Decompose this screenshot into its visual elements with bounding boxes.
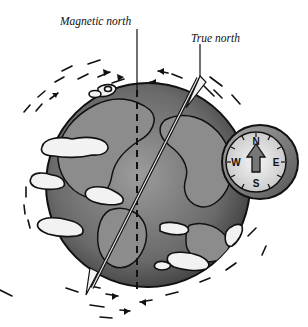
compass-w: W — [231, 157, 241, 168]
globe — [46, 83, 250, 287]
magnetic-north-label: Magnetic north — [59, 15, 131, 28]
diagram-stage: Magnetic north True north N E S W — [0, 0, 308, 327]
cloud — [89, 91, 101, 98]
true-north-label: True north — [191, 32, 240, 44]
earth-magnetism-diagram: Magnetic north True north N E S W — [0, 0, 308, 327]
cloud — [105, 87, 112, 92]
compass-e: E — [273, 157, 280, 168]
cloud — [42, 137, 109, 157]
compass: N E S W — [222, 125, 298, 199]
compass-s: S — [253, 178, 260, 189]
cloud — [154, 261, 170, 270]
